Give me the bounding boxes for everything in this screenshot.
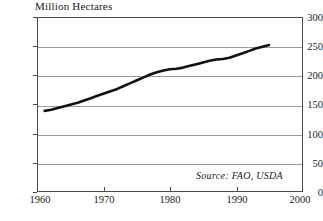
ytick-mark-100 bbox=[33, 134, 37, 135]
xtick-mark-1990 bbox=[237, 187, 238, 192]
xtick-label-1970: 1970 bbox=[84, 195, 124, 206]
ytick-mark-50 bbox=[33, 163, 37, 164]
xtick-label-1980: 1980 bbox=[150, 195, 190, 206]
ytick-mark-150 bbox=[33, 104, 37, 105]
series-line-irrigated-area bbox=[38, 18, 302, 191]
ytick-mark-300 bbox=[33, 17, 37, 18]
source-annotation: Source: FAO, USDA bbox=[196, 170, 283, 181]
plot-area bbox=[37, 17, 303, 192]
ytick-label-200: 200 bbox=[293, 71, 323, 82]
ytick-label-100: 100 bbox=[293, 130, 323, 141]
ytick-label-150: 150 bbox=[293, 100, 323, 111]
ytick-label-50: 50 bbox=[293, 159, 323, 170]
xtick-label-1990: 1990 bbox=[217, 195, 257, 206]
ytick-label-300: 300 bbox=[293, 13, 323, 24]
xtick-label-2000: 2000 bbox=[280, 195, 320, 206]
ytick-mark-200 bbox=[33, 75, 37, 76]
ytick-mark-0 bbox=[33, 192, 37, 193]
xtick-label-1960: 1960 bbox=[20, 195, 60, 206]
chart-figure: Million Hectares 300 250 200 150 100 50 … bbox=[0, 0, 323, 221]
xtick-mark-1970 bbox=[104, 187, 105, 192]
xtick-mark-1980 bbox=[170, 187, 171, 192]
ytick-mark-250 bbox=[33, 46, 37, 47]
page-title: Million Hectares bbox=[35, 0, 112, 12]
ytick-label-250: 250 bbox=[293, 42, 323, 53]
